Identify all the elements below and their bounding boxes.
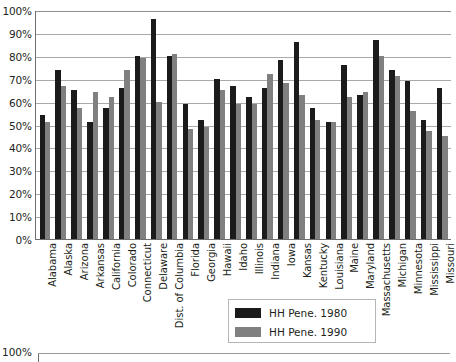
legend-swatch-1990-icon [235, 327, 261, 337]
bar [410, 111, 415, 239]
bar [299, 95, 304, 239]
bar-group [196, 11, 212, 239]
bar-group [307, 11, 323, 239]
x-axis-label-cell: Mississippi [418, 241, 434, 327]
bar-group [69, 11, 85, 239]
y-axis: 100%90%80%70%60%50%40%30%20%10%0% [0, 5, 34, 247]
bar-group [275, 11, 291, 239]
x-axis-label-cell: Arizona [68, 241, 84, 327]
x-axis-label-cell: California [100, 241, 116, 327]
x-axis-label: Missouri [446, 243, 456, 284]
y-tick-label: 60% [9, 98, 32, 108]
legend-item-1980: HH Pene. 1980 [235, 305, 375, 321]
bar [395, 76, 400, 239]
next-chart-y-top-label: 100% [2, 347, 32, 358]
bar-group [228, 11, 244, 239]
x-axis-label-cell: Alabama [36, 241, 52, 327]
next-chart-y-axis-line [38, 353, 39, 362]
legend-swatch-1980-icon [235, 308, 261, 318]
bar-group [387, 11, 403, 239]
bar-group [53, 11, 69, 239]
legend-label-1990: HH Pene. 1990 [269, 327, 347, 338]
bar [252, 104, 257, 239]
bar [426, 131, 431, 239]
bar [220, 90, 225, 239]
y-tick-label: 0% [16, 235, 32, 245]
y-tick-label: 90% [9, 29, 32, 39]
bar [140, 58, 145, 239]
x-axis-label-cell: Florida [179, 241, 195, 327]
bar [236, 104, 241, 239]
bar-group [371, 11, 387, 239]
plot-area [35, 11, 451, 240]
x-axis-label-cell: Delaware [147, 241, 163, 327]
x-axis-label-cell: Dist. of Columbia [163, 241, 179, 327]
bar-group [259, 11, 275, 239]
bar [61, 86, 66, 239]
bar-group [164, 11, 180, 239]
bar-group [434, 11, 450, 239]
bar [45, 122, 50, 239]
x-axis-label-cell: Alaska [52, 241, 68, 327]
y-tick-label: 10% [9, 212, 32, 222]
bar-group [355, 11, 371, 239]
bar [172, 54, 177, 239]
bar-group [244, 11, 260, 239]
bar-group [339, 11, 355, 239]
bar [363, 92, 368, 239]
bar-group [402, 11, 418, 239]
x-axis-label-cell: Colorado [116, 241, 132, 327]
chart-legend: HH Pene. 1980 HH Pene. 1990 [228, 299, 376, 343]
bar [204, 127, 209, 239]
next-chart-partial: 100% [0, 347, 452, 362]
next-chart-top-gridline [38, 353, 450, 354]
x-axis-label-cell: Minnesota [402, 241, 418, 327]
bar [331, 122, 336, 239]
y-tick-label: 20% [9, 189, 32, 199]
legend-label-1980: HH Pene. 1980 [269, 308, 347, 319]
x-axis-label-cell: Michigan [386, 241, 402, 327]
bar [315, 120, 320, 239]
bar-group [132, 11, 148, 239]
bar [347, 97, 352, 239]
bar [379, 56, 384, 239]
x-axis-label-cell: Arkansas [84, 241, 100, 327]
bar [267, 74, 272, 239]
x-axis-label-cell: Georgia [195, 241, 211, 327]
bar [109, 97, 114, 239]
y-tick-label: 50% [9, 121, 32, 131]
bar-group [148, 11, 164, 239]
bar [156, 102, 161, 239]
bar-group [291, 11, 307, 239]
y-tick-label: 80% [9, 52, 32, 62]
bar [442, 136, 447, 239]
bar [93, 92, 98, 239]
y-tick-label: 40% [9, 143, 32, 153]
bar-group [37, 11, 53, 239]
x-axis-label-cell: Hawaii [211, 241, 227, 327]
bar [77, 108, 82, 239]
bars-layer [36, 11, 451, 239]
y-tick-label: 70% [9, 75, 32, 85]
bar [124, 70, 129, 239]
bar-group [212, 11, 228, 239]
y-tick-label: 30% [9, 166, 32, 176]
bar-group [116, 11, 132, 239]
bar-group [180, 11, 196, 239]
x-axis-label-cell: Missouri [434, 241, 450, 327]
bar [188, 129, 193, 239]
bar-group [418, 11, 434, 239]
x-axis-label-cell: Connecticut [132, 241, 148, 327]
bar-group [323, 11, 339, 239]
legend-item-1990: HH Pene. 1990 [235, 324, 375, 340]
bar [283, 83, 288, 239]
bar-group [101, 11, 117, 239]
bar-group [85, 11, 101, 239]
y-tick-label: 100% [2, 6, 32, 16]
